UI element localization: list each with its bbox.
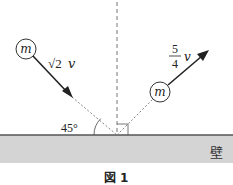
outgoing-speed-var: v	[184, 50, 191, 64]
angle-arc	[94, 119, 101, 135]
angle-label: 45°	[61, 121, 78, 135]
outgoing-speed-label: 5 4 v	[169, 42, 191, 71]
incoming-speed-coeff: √2	[48, 56, 62, 71]
outgoing-path	[117, 99, 153, 135]
outgoing-speed-denominator: 4	[172, 57, 178, 71]
wall	[0, 135, 233, 163]
incoming-speed-label: √2 v	[48, 56, 76, 71]
wall-label: 壁	[210, 145, 223, 160]
outgoing-ball-label: m	[154, 85, 165, 99]
incoming-speed-var: v	[68, 56, 76, 71]
incoming-ball-label: m	[20, 42, 31, 56]
figure-caption: 図 1	[104, 171, 129, 185]
collision-diagram: 壁 45° m √2 v m 5 4 v 図 1	[0, 0, 233, 185]
outgoing-speed-numerator: 5	[172, 42, 178, 56]
